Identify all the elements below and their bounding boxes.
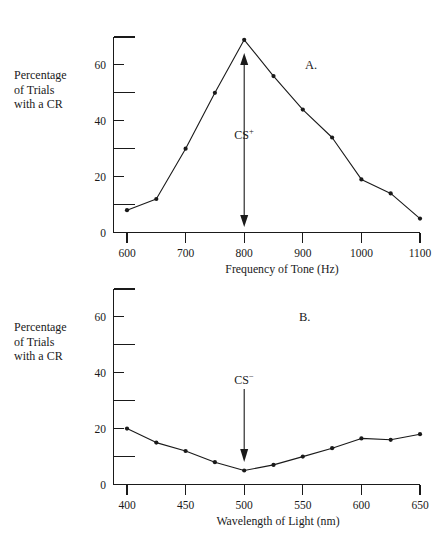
panel-a-series-line: [127, 40, 420, 219]
panel-b-xtick-label-400: 400: [105, 498, 149, 512]
panel-b-x-ticks: [127, 485, 420, 496]
panel-a-y-axis-title: Percentage of Trials with a CR: [14, 68, 67, 112]
panel-b-y-axis-title: Percentage of Trials with a CR: [14, 320, 67, 364]
panel-b-cs-minus-sign: −: [249, 371, 254, 381]
panel-b-ytick-label-60: 60: [80, 310, 106, 324]
panel-b-cs-minus-label: CS−: [219, 373, 269, 388]
panel-b-y-ticks: [114, 289, 136, 485]
panel-b-y-axis-title-line-1: Percentage: [14, 320, 67, 335]
panel-a-ytick-label-20: 20: [80, 170, 106, 184]
panel-a-ytick-label-40: 40: [80, 114, 106, 128]
panel-b-xtick-label-600: 600: [339, 498, 383, 512]
panel-a-xtick-label-1100: 1100: [398, 246, 442, 260]
panel-a-y-axis-title-line-3: with a CR: [14, 97, 67, 112]
panel-a-tone-generalization: 0 20 40 60 600 700 800 900 1000 1100 Fre…: [0, 0, 443, 280]
panel-a-xtick-label-900: 900: [281, 246, 325, 260]
panel-b-cs-minus-arrow: [240, 389, 248, 462]
panel-a-y-axis-title-line-1: Percentage: [14, 68, 67, 83]
panel-a-series-points: [125, 38, 422, 221]
panel-b-xtick-label-450: 450: [164, 498, 208, 512]
panel-a-x-ticks: [127, 233, 420, 244]
panel-b-cs-minus-text: CS: [234, 373, 249, 387]
panel-a-x-axis-title: Frequency of Tone (Hz): [137, 262, 427, 276]
panel-a-xtick-label-700: 700: [164, 246, 208, 260]
panel-b-ytick-label-0: 0: [80, 478, 106, 492]
panel-a-y-ticks: [114, 37, 136, 233]
panel-b-ytick-label-20: 20: [80, 422, 106, 436]
panel-a-ytick-label-0: 0: [80, 226, 106, 240]
panel-a-cs-plus-label: CS+: [219, 128, 269, 143]
panel-b-letter: B.: [299, 310, 310, 325]
panel-b-light-generalization: 0 20 40 60 400 450 500 550 600 650 Wavel…: [0, 280, 443, 547]
panel-a-cs-plus-text: CS: [234, 128, 249, 142]
panel-a-cs-plus-sign: +: [249, 126, 254, 136]
panel-a-xtick-label-600: 600: [105, 246, 149, 260]
panel-b-ytick-label-40: 40: [80, 366, 106, 380]
panel-b-y-axis-title-line-2: of Trials: [14, 335, 67, 350]
panel-a-letter: A.: [305, 58, 317, 73]
panel-b-xtick-label-650: 650: [398, 498, 442, 512]
panel-b-series-points: [125, 427, 422, 473]
panel-b-xtick-label-550: 550: [281, 498, 325, 512]
panel-a-y-axis-title-line-2: of Trials: [14, 83, 67, 98]
panel-a-xtick-label-1000: 1000: [339, 246, 383, 260]
panel-b-xtick-label-500: 500: [222, 498, 266, 512]
panel-b-y-axis-title-line-3: with a CR: [14, 349, 67, 364]
panel-a-xtick-label-800: 800: [222, 246, 266, 260]
panel-a-ytick-label-60: 60: [80, 58, 106, 72]
panel-b-x-axis-title: Wavelength of Light (nm): [133, 514, 423, 528]
